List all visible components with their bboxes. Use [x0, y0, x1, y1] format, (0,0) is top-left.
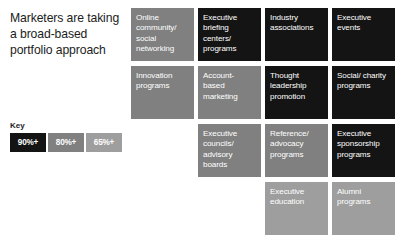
tile: Account- based marketing: [198, 66, 261, 119]
legend-swatch-80pct: 80%+: [48, 133, 84, 152]
tile: Innovation programs: [131, 66, 194, 119]
legend-swatch-list: 90%+80%+65%+: [10, 133, 128, 152]
page-title: Marketers are taking a broad-based portf…: [10, 10, 122, 59]
tile: Industry associations: [265, 8, 328, 61]
tile: Social/ charity programs: [332, 66, 395, 119]
legend: Key 90%+80%+65%+: [10, 121, 128, 152]
tile-empty: [131, 124, 194, 177]
tile-empty: [131, 182, 194, 235]
legend-title: Key: [10, 121, 128, 131]
tile: Reference/ advocacy programs: [265, 124, 328, 177]
tile: Executive sponsorship programs: [332, 124, 395, 177]
tile-empty: [198, 182, 261, 235]
left-panel: Marketers are taking a broad-based portf…: [0, 0, 128, 236]
tile-grid: Online community/ social networkingExecu…: [131, 8, 397, 228]
legend-swatch-90pct: 90%+: [10, 133, 46, 152]
tile: Online community/ social networking: [131, 8, 194, 61]
portfolio-approach-diagram: Marketers are taking a broad-based portf…: [0, 0, 404, 236]
tile: Executive briefing centers/ programs: [198, 8, 261, 61]
tile: Executive councils/ advisory boards: [198, 124, 261, 177]
tile: Executive events: [332, 8, 395, 61]
legend-swatch-65pct: 65%+: [86, 133, 122, 152]
tile: Alumni programs: [332, 182, 395, 235]
tile: Executive education: [265, 182, 328, 235]
tile: Thought leadership promotion: [265, 66, 328, 119]
